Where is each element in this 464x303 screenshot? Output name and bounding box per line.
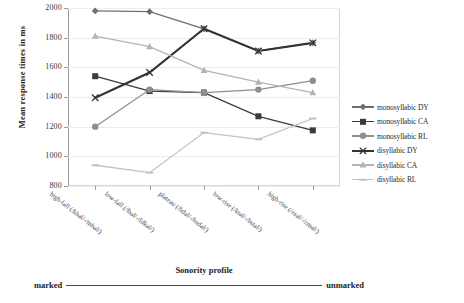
legend-marker-circle-icon <box>352 131 374 141</box>
gridline <box>68 97 340 98</box>
data-point-circle <box>360 133 366 139</box>
legend-label: disyllabic DY <box>377 146 418 155</box>
y-tick-mark <box>64 8 68 9</box>
y-tick-mark <box>64 127 68 128</box>
y-tick-label: 1600 <box>28 62 62 71</box>
legend-label: monosyllabic RL <box>377 132 427 141</box>
legend-item[interactable]: monosyllabic DY <box>352 100 464 115</box>
data-point-diamond <box>360 104 367 111</box>
data-point-cross <box>360 147 366 153</box>
legend-item[interactable]: disyllabic DY <box>352 144 464 159</box>
legend-marker-dash-icon <box>352 175 374 185</box>
legend-item[interactable]: disyllabic RL <box>352 173 464 188</box>
legend-label: monosyllabic CA <box>377 117 428 126</box>
gridline <box>68 8 340 9</box>
data-point-dash <box>359 179 366 181</box>
markedness-right-label: unmarked <box>326 280 364 290</box>
x-tick-mark <box>204 186 205 190</box>
y-tick-mark <box>64 156 68 157</box>
legend-label: disyllabic RL <box>377 175 416 184</box>
legend-marker-diamond-icon <box>352 102 374 112</box>
legend-label: monosyllabic DY <box>377 103 429 112</box>
y-tick-label: 1400 <box>28 92 62 101</box>
legend-marker-triangle-icon <box>352 160 374 170</box>
x-axis-title: Sonority profile <box>68 265 340 275</box>
x-tick-label: high-rise (/zsal/-/zmal/) <box>266 190 321 235</box>
y-axis-title: Mean response times in ms <box>17 7 27 147</box>
y-tick-label: 1800 <box>28 33 62 42</box>
gridline <box>68 127 340 128</box>
legend-item[interactable]: monosyllabic CA <box>352 115 464 130</box>
data-point-triangle <box>360 161 367 167</box>
x-tick-mark <box>150 186 151 190</box>
y-tick-mark <box>64 38 68 39</box>
chart-container: 800100012001400160018002000 Mean respons… <box>0 0 464 303</box>
gridline <box>68 67 340 68</box>
markedness-connector <box>66 285 322 286</box>
x-tick-mark <box>95 186 96 190</box>
markedness-scale: marked unmarked <box>34 278 364 292</box>
legend-label: disyllabic CA <box>377 161 417 170</box>
y-tick-mark <box>64 186 68 187</box>
y-tick-label: 2000 <box>28 3 62 12</box>
data-point-square <box>360 119 366 125</box>
y-tick-label: 1000 <box>28 151 62 160</box>
x-tick-label: plateau (/bdal/-/bsdal/) <box>157 190 210 234</box>
gridline <box>68 38 340 39</box>
x-tick-mark <box>313 186 314 190</box>
y-tick-label: 1200 <box>28 122 62 131</box>
legend-marker-square-icon <box>352 117 374 127</box>
gridline <box>68 156 340 157</box>
markedness-left-label: marked <box>34 280 62 290</box>
legend-item[interactable]: monosyllabic RL <box>352 129 464 144</box>
x-tick-mark <box>258 186 259 190</box>
y-tick-label: 800 <box>28 181 62 190</box>
y-tick-mark <box>64 67 68 68</box>
y-tick-mark <box>64 97 68 98</box>
legend-item[interactable]: disyllabic CA <box>352 158 464 173</box>
x-tick-label: low-fall (/lbal/-/fdkal/) <box>103 190 156 234</box>
legend-marker-cross-icon <box>352 146 374 156</box>
x-tick-label: low-rise (/ktal/-/bstal/) <box>211 190 264 234</box>
x-tick-label: high-fall (/kbal/-/mbal/) <box>48 190 104 236</box>
chart-legend: monosyllabic DYmonosyllabic CAmonosyllab… <box>352 100 464 187</box>
